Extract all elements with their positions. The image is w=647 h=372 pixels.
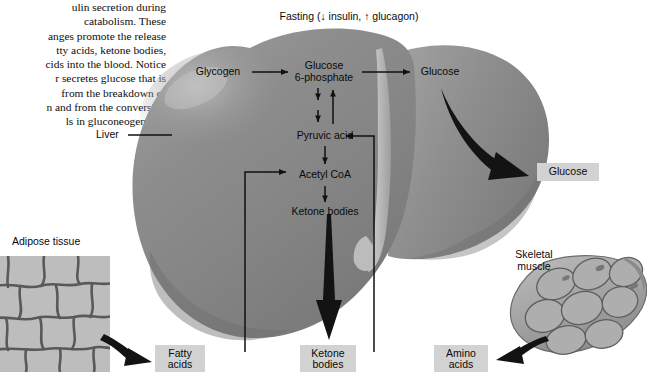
acetyl-coa-label: Acetyl CoA	[285, 169, 365, 181]
glucose-6-phosphate-label: Glucose 6-phosphate	[285, 60, 363, 83]
amino-acids-output-box[interactable]: Amino acids	[434, 345, 488, 372]
skeletal-muscle-label: Skeletal muscle	[495, 249, 573, 272]
fatty-acids-output-box[interactable]: Fatty acids	[155, 345, 205, 372]
glucose-liver-label: Glucose	[409, 66, 471, 78]
ketone-bodies-label: Ketone bodies	[277, 206, 373, 218]
pyruvic-acid-label: Pyruvic acid	[280, 130, 370, 142]
adipose-tissue-label: Adipose tissue	[12, 236, 80, 248]
liver-label: Liver	[96, 129, 119, 141]
adipose-tissue-image	[0, 256, 112, 372]
anatomy-artwork	[0, 0, 647, 372]
glucose-output-box[interactable]: Glucose	[537, 163, 599, 181]
ketone-bodies-output-box[interactable]: Ketone bodies	[300, 345, 356, 372]
fasting-condition-label: Fasting (↓ insulin, ↑ glucagon)	[249, 11, 449, 23]
figure-canvas: ulin secretion during catabolism. These …	[0, 0, 647, 372]
glycogen-label: Glycogen	[183, 66, 253, 78]
